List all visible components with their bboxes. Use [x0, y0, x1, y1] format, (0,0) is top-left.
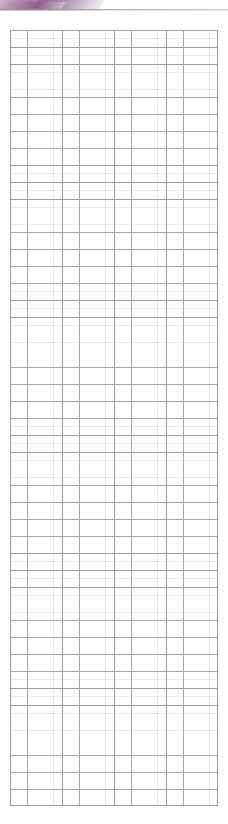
header-divider-rule-shadow	[0, 10, 228, 11]
grid-lines	[10, 30, 218, 806]
scanned-page	[0, 0, 228, 824]
ruled-grid	[10, 30, 218, 806]
header-swoosh-highlight	[4, 2, 65, 9]
page-header-band	[0, 0, 228, 11]
header-title-text	[62, 0, 184, 4]
page-bottom-margin	[0, 808, 228, 824]
